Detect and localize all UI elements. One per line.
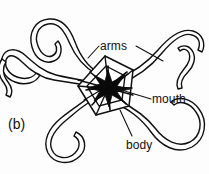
arm-upper-left	[31, 19, 99, 74]
brittle-star-illustration	[0, 0, 209, 174]
leader-line-body	[120, 110, 132, 136]
label-body: body	[126, 139, 152, 151]
arm-lower-left	[46, 94, 95, 162]
label-mouth: mouth	[152, 93, 186, 105]
leader-line-arms-left	[88, 46, 99, 58]
figure-panel-b: arms mouth body (b)	[0, 0, 209, 174]
label-arms: arms	[100, 40, 127, 52]
panel-label: (b)	[8, 117, 25, 131]
